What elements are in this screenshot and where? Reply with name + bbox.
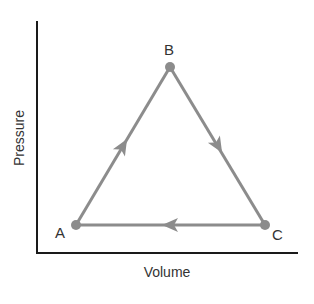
direction-arrows: [113, 136, 228, 232]
cycle: [76, 67, 265, 225]
arrow-a-b-icon: [113, 136, 133, 157]
arrow-b-c-icon: [208, 136, 228, 157]
point-a: [71, 220, 81, 230]
x-axis-label: Volume: [144, 264, 191, 280]
point-b-label: B: [164, 41, 174, 58]
vertices: [71, 62, 270, 230]
point-c-label: C: [272, 226, 283, 243]
pv-diagram: A B C Volume Pressure: [0, 0, 314, 304]
y-axis-label: Pressure: [11, 110, 27, 166]
point-b: [165, 62, 175, 72]
point-c: [260, 220, 270, 230]
point-a-label: A: [55, 224, 65, 241]
